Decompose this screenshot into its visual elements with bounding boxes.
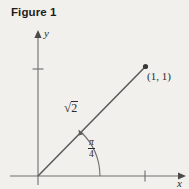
y-axis-arrowhead [34, 30, 41, 38]
coordinate-plot [0, 0, 189, 189]
point-marker-1-1 [143, 64, 148, 69]
angle-numerator: π [88, 138, 95, 148]
y-axis-label: y [44, 27, 49, 39]
radius-length-label: √2 [64, 101, 78, 115]
figure-container: Figure 1 y x (1, 1) √2 π 4 [0, 0, 189, 189]
radius-radicand: 2 [71, 101, 79, 115]
point-coordinate-label: (1, 1) [147, 70, 171, 82]
angle-denominator: 4 [88, 150, 95, 160]
angle-measure-label: π 4 [88, 138, 95, 160]
x-axis-label: x [177, 177, 182, 189]
